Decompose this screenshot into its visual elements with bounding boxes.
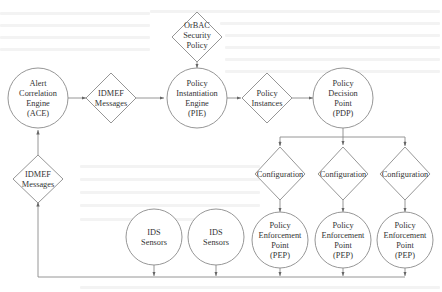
idmef-bottom-diamond [13,155,63,203]
pie-circle [167,68,227,128]
pep-2-label-3: Point [334,241,352,250]
node-config-1: Configuration [255,147,305,200]
node-pep-2: Policy Enforcement Point (PEP) [315,212,371,268]
pep-2-label-4: (PEP) [333,251,353,260]
pep-3-label-4: (PEP) [395,251,415,260]
ids-2-circle [188,209,244,265]
pdp-label-2: Decision [328,89,358,98]
node-config-2: Configuration [318,147,368,200]
idmef-bottom-label-2: Messages [22,180,54,189]
ids-1-label-2: Sensors [141,238,167,247]
orbac-label-3: Policy [186,41,208,50]
pdp-label-3: Point [334,99,352,108]
idmef-top-label-1: IDMEF [98,89,124,98]
ids-1-circle [126,209,182,265]
pdp-label-4: (PDP) [333,109,354,118]
node-pep-1: Policy Enforcement Point (PEP) [252,212,308,268]
idmef-bottom-label-1: IDMEF [25,170,51,179]
pie-label-4: (PIE) [188,109,206,118]
ace-label-4: (ACE) [27,109,49,118]
ace-circle [8,68,68,128]
pep-2-label-1: Policy [332,221,354,230]
node-pep-3: Policy Enforcement Point (PEP) [377,212,433,268]
ids-1-label-1: IDS [147,228,161,237]
pdp-circle [313,68,373,128]
flow-diagram: Alert Correlation Engine (ACE) IDMEF Mes… [0,0,442,292]
ids-2-label-2: Sensors [203,238,229,247]
pep-2-label-2: Enforcement [322,231,366,240]
config-1-label: Configuration [257,170,304,179]
pep-3-label-1: Policy [394,221,416,230]
config-2-label: Configuration [320,170,367,179]
pdp-label-1: Policy [332,79,354,88]
node-pdp: Policy Decision Point (PDP) [313,68,373,128]
pie-label-1: Policy [186,79,208,88]
idmef-top-diamond [86,73,136,123]
pie-label-3: Engine [185,99,209,108]
node-pie: Policy Instantiation Engine (PIE) [167,68,227,128]
pep-3-label-2: Enforcement [384,231,428,240]
node-idmef-bottom: IDMEF Messages [13,155,63,203]
pep-1-label-2: Enforcement [259,231,303,240]
config-3-label: Configuration [382,170,429,179]
ace-label-1: Alert [29,79,47,88]
node-ace: Alert Correlation Engine (ACE) [8,68,68,128]
edge-pdp-branch [280,137,405,145]
pep-3-label-3: Point [396,241,414,250]
node-ids-1: IDS Sensors [126,209,182,265]
ace-label-2: Correlation [19,89,58,98]
instances-label-1: Policy [256,89,278,98]
pep-1-label-3: Point [271,241,289,250]
pie-label-2: Instantiation [176,89,218,98]
ace-label-3: Engine [26,99,50,108]
instances-diamond [242,73,292,123]
node-ids-2: IDS Sensors [188,209,244,265]
pep-1-label-4: (PEP) [270,251,290,260]
pep-1-label-1: Policy [269,221,291,230]
node-config-3: Configuration [380,147,430,200]
ids-2-label-1: IDS [209,228,223,237]
idmef-top-label-2: Messages [95,99,127,108]
orbac-label-2: Security [183,31,212,40]
instances-label-2: Instances [252,99,283,108]
node-orbac: OrBAC Security Policy [172,12,222,62]
orbac-label-1: OrBAC [184,21,210,30]
node-idmef-top: IDMEF Messages [86,73,136,123]
node-policy-instances: Policy Instances [242,73,292,123]
